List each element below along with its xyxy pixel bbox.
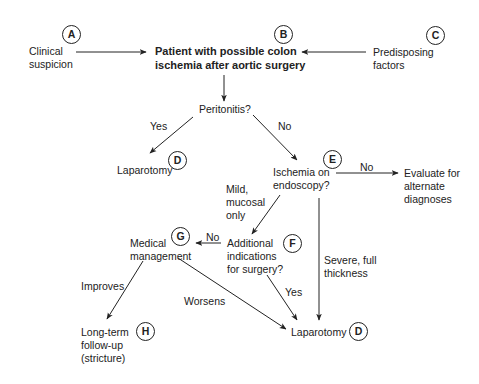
node-patient-line2: ischemia after aortic surgery: [155, 59, 305, 73]
edge-label-no-additional: No: [206, 231, 219, 244]
node-patient-line1: Patient with possible colon: [155, 45, 305, 59]
node-predisposing-line1: Predisposing: [373, 46, 434, 59]
marker-f: F: [283, 234, 302, 253]
edge-label-yes-additional: Yes: [285, 286, 302, 299]
node-predisposing-line2: factors: [373, 59, 434, 72]
edge-label-mild-mucosal: Mild, mucosal only: [226, 183, 265, 222]
node-evaluate-alternate: Evaluate for alternate diagnoses: [404, 167, 460, 206]
edge-label-worsens: Worsens: [184, 295, 225, 308]
node-clinical-suspicion: Clinical suspicion: [29, 45, 73, 71]
node-ischemia-endoscopy: Ischemia on endoscopy?: [273, 166, 330, 192]
edge-label-severe-full-thickness: Severe, full thickness: [324, 254, 377, 280]
node-clinical-line2: suspicion: [29, 58, 73, 71]
edge-label-improves: Improves: [81, 280, 124, 293]
marker-d-bottom: D: [349, 322, 368, 341]
node-additional-line2: indications: [227, 250, 283, 263]
marker-h: H: [136, 322, 155, 341]
node-peritonitis: Peritonitis?: [199, 103, 251, 116]
node-additional-line3: for surgery?: [227, 263, 283, 276]
node-ischemia-line1: Ischemia on: [273, 166, 330, 179]
node-laparotomy-bottom: Laparotomy: [291, 326, 346, 339]
node-evaluate-line1: Evaluate for: [404, 167, 460, 180]
edge-label-no-peritonitis: No: [278, 120, 291, 133]
edge-label-severe-line1: Severe, full: [324, 254, 377, 267]
node-clinical-line1: Clinical: [29, 45, 73, 58]
edge-label-mild-line1: Mild,: [226, 183, 265, 196]
edge-label-yes-peritonitis: Yes: [150, 120, 167, 133]
node-longterm-line1: Long-term: [81, 326, 129, 339]
marker-c: C: [426, 26, 445, 45]
marker-b: B: [274, 25, 293, 44]
node-patient: Patient with possible colon ischemia aft…: [155, 45, 305, 72]
node-medical-line2: management: [130, 250, 191, 263]
node-medical-line1: Medical: [130, 237, 191, 250]
node-longterm-line3: (stricture): [81, 352, 129, 365]
node-ischemia-line2: endoscopy?: [273, 179, 330, 192]
edge-label-no-ischemia: No: [360, 161, 373, 174]
node-long-term-follow-up: Long-term follow-up (stricture): [81, 326, 129, 365]
node-evaluate-line2: alternate: [404, 180, 460, 193]
edge-label-mild-line3: only: [226, 209, 265, 222]
node-additional-indications: Additional indications for surgery?: [227, 237, 283, 276]
node-laparotomy-top: Laparotomy: [117, 164, 172, 177]
node-medical-management: Medical management: [130, 237, 191, 263]
edge-label-severe-line2: thickness: [324, 267, 377, 280]
node-predisposing-factors: Predisposing factors: [373, 46, 434, 72]
node-evaluate-line3: diagnoses: [404, 193, 460, 206]
node-longterm-line2: follow-up: [81, 339, 129, 352]
edge-label-mild-line2: mucosal: [226, 196, 265, 209]
node-additional-line1: Additional: [227, 237, 283, 250]
marker-a: A: [62, 25, 81, 44]
